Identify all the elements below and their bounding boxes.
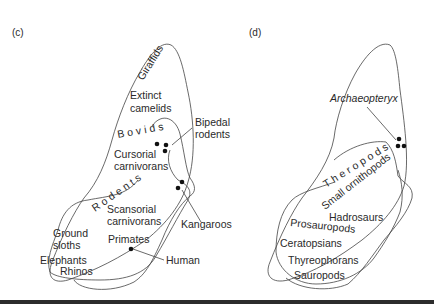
panel-label-d: (d) bbox=[249, 27, 261, 38]
panel-label-c: (c) bbox=[12, 27, 24, 38]
label-scansorial-1: Scansorial bbox=[107, 203, 156, 215]
label-giraffids: Giraffids bbox=[135, 43, 166, 82]
label-scansorial-2: carnivorans bbox=[107, 215, 161, 227]
label-extinct-camelids-2: camelids bbox=[130, 102, 171, 114]
data-point bbox=[155, 142, 160, 147]
data-point bbox=[402, 144, 407, 149]
leader-archaeopteryx bbox=[367, 107, 396, 140]
label-bipedal-rodents-2: rodents bbox=[195, 128, 230, 140]
label-kangaroos: Kangaroos bbox=[181, 218, 232, 230]
data-point bbox=[396, 144, 401, 149]
data-point-human bbox=[129, 247, 134, 252]
data-point bbox=[397, 137, 402, 142]
bottom-rule bbox=[0, 300, 434, 304]
label-primates: Primates bbox=[108, 233, 149, 245]
label-sauropods: Sauropods bbox=[294, 269, 345, 281]
label-bovids: Bovids bbox=[116, 120, 167, 140]
label-bipedal-rodents-1: Bipedal bbox=[195, 116, 230, 128]
panel-d: (d) Archaeopteryx Theropods Small ornith… bbox=[249, 27, 412, 289]
label-cursorial-2: carnivorans bbox=[114, 160, 168, 172]
data-point bbox=[180, 180, 185, 185]
label-rhinos: Rhinos bbox=[60, 265, 93, 277]
morphospace-figure: (c) Giraffids Extinct camelids Bovids Bi… bbox=[0, 0, 434, 308]
data-point bbox=[163, 149, 168, 154]
data-point bbox=[176, 186, 181, 191]
panel-c: (c) Giraffids Extinct camelids Bovids Bi… bbox=[12, 27, 232, 289]
label-ground-sloths-1: Ground bbox=[53, 227, 88, 239]
label-thyreophorans: Thyreophorans bbox=[288, 254, 359, 266]
label-extinct-camelids-1: Extinct bbox=[130, 89, 162, 101]
label-ground-sloths-2: sloths bbox=[53, 239, 80, 251]
data-point bbox=[164, 143, 169, 148]
label-ceratopsians: Ceratopsians bbox=[280, 237, 342, 249]
label-human: Human bbox=[166, 254, 200, 266]
label-archaeopteryx: Archaeopteryx bbox=[329, 92, 398, 104]
label-cursorial-1: Cursorial bbox=[114, 148, 156, 160]
